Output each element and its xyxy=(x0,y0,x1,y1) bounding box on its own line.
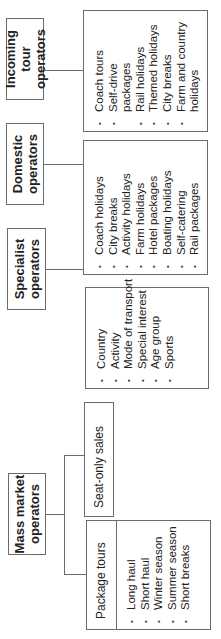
incoming-list: Coach tours Self-drive packages Rail hol… xyxy=(93,17,202,125)
domestic-title: Domestic operators xyxy=(10,124,40,204)
list-item: Activity holidays xyxy=(120,147,134,268)
connector-line xyxy=(46,514,64,515)
domestic-list-box: Coach holidays City breaks Activity holi… xyxy=(83,140,208,275)
package-tours-list: Long haul Short haul Winter season Summe… xyxy=(125,527,193,623)
list-item: Special interest xyxy=(136,294,150,382)
domestic-list: Coach holidays City breaks Activity holi… xyxy=(93,147,202,268)
specialist-title: Specialist operators xyxy=(12,229,42,309)
list-item: Coach tours xyxy=(93,17,107,125)
specialist-operators-box: Specialist operators xyxy=(7,228,46,310)
mass-market-operators-box: Mass market operators xyxy=(8,473,46,555)
list-item: Coach holidays xyxy=(93,147,107,268)
seat-only-sales-box: Seat-only sales xyxy=(84,402,114,517)
list-item: Boating holidays xyxy=(161,147,175,268)
list-item: Rail holidays xyxy=(134,17,148,125)
specialist-list-box: Country Activity Mode of transport Speci… xyxy=(85,287,209,389)
list-item: Sports xyxy=(163,294,177,382)
list-item: Short haul xyxy=(139,527,153,623)
incoming-title: Incoming tour operators xyxy=(3,19,48,99)
list-item: Hotel packages xyxy=(147,147,161,268)
connector-line xyxy=(44,70,83,71)
mass-market-title: Mass market operators xyxy=(12,474,42,554)
list-item: Activity xyxy=(109,294,123,382)
list-item: Age group xyxy=(149,294,163,382)
list-item: Self-catering xyxy=(175,147,189,268)
list-item: Short breaks xyxy=(179,527,193,623)
list-item: Country xyxy=(95,294,109,382)
incoming-list-box: Coach tours Self-drive packages Rail hol… xyxy=(83,10,208,132)
package-tours-title: Package tours xyxy=(87,521,117,629)
list-item: Farm and country holidays xyxy=(175,12,202,125)
connector-line xyxy=(64,574,86,575)
list-item: City breaks xyxy=(161,17,175,125)
domestic-operators-box: Domestic operators xyxy=(6,123,44,205)
list-item: Themed holidays xyxy=(147,17,161,125)
list-item: Summer season xyxy=(166,527,180,623)
list-item: City breaks xyxy=(107,147,121,268)
list-item: Self-drive packages xyxy=(107,57,134,125)
connector-line xyxy=(46,269,85,270)
incoming-tour-operators-box: Incoming tour operators xyxy=(6,18,44,100)
list-item: Winter season xyxy=(152,527,166,623)
list-item: Farm holidays xyxy=(134,147,148,268)
operator-types-diagram: Mass market operators Package tours Long… xyxy=(0,0,221,639)
list-item: Long haul xyxy=(125,527,139,623)
list-item: Rail packages xyxy=(188,147,202,268)
specialist-list: Country Activity Mode of transport Speci… xyxy=(95,294,177,382)
connector-line xyxy=(44,164,83,165)
list-item: Mode of transport xyxy=(122,294,136,382)
package-tours-box: Package tours Long haul Short haul Winte… xyxy=(86,520,211,630)
connector-line xyxy=(64,455,84,456)
connector-line xyxy=(64,455,65,575)
seat-only-sales-title: Seat-only sales xyxy=(85,403,113,516)
